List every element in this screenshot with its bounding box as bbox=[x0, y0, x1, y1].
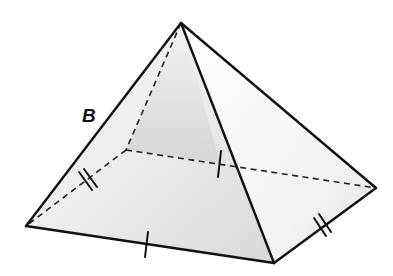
pyramid-diagram bbox=[0, 0, 393, 276]
label-b: B bbox=[82, 106, 96, 125]
